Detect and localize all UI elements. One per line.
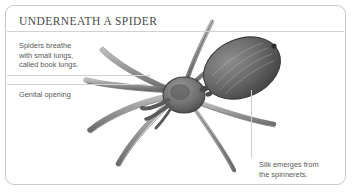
label-spinnerets: Silk emerges from the spinnerets.: [259, 160, 319, 179]
label-genital-opening: Genital opening: [19, 90, 71, 100]
leader-line-spinnerets: [251, 90, 252, 158]
spider-cephalothorax: [163, 77, 205, 113]
spider-abdomen: [194, 25, 291, 111]
leader-line-book-lungs: [7, 75, 151, 76]
leader-line-genital-opening: [7, 84, 147, 85]
page-title: UNDERNEATH A SPIDER: [19, 15, 157, 27]
label-book-lungs: Spiders breathe with small lungs, called…: [19, 41, 78, 70]
title-divider: [7, 31, 344, 32]
underneath-a-spider-card: UNDERNEATH A SPIDER: [5, 5, 346, 185]
